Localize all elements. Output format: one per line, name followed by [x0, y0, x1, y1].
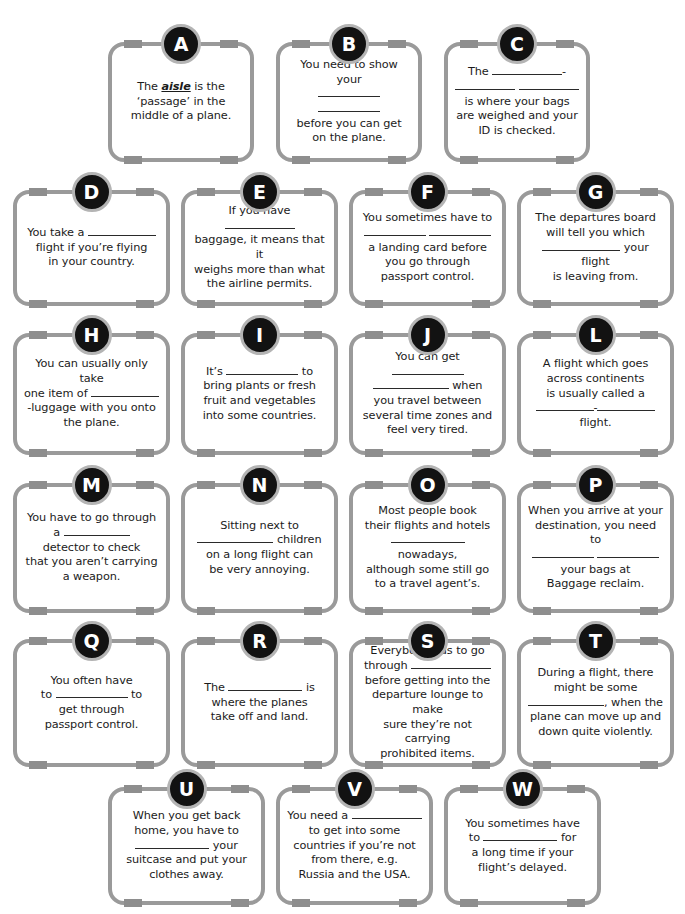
- card-corner-tab-tl-icon: [365, 331, 383, 339]
- vocab-card-p[interactable]: PWhen you arrive at yourdestination, you…: [517, 483, 674, 613]
- card-letter-badge-v: V: [335, 769, 375, 809]
- card-corner-tab-tr-icon: [472, 188, 490, 196]
- card-corner-tab-tr-icon: [136, 188, 154, 196]
- vocab-card-r[interactable]: RThe iswhere the planestake off and land…: [181, 639, 338, 767]
- card-text-j: You can get whenyou travel betweensevera…: [353, 348, 502, 440]
- card-corner-tab-tr-icon: [304, 637, 322, 645]
- card-corner-tab-br-icon: [640, 761, 658, 769]
- card-corner-tab-bl-icon: [365, 761, 383, 769]
- card-corner-tab-br-icon: [304, 300, 322, 308]
- card-corner-tab-tl-icon: [460, 785, 478, 793]
- card-corner-tab-br-icon: [640, 449, 658, 457]
- vocab-card-w[interactable]: WYou sometimes haveto fora long time if …: [444, 787, 601, 905]
- card-corner-tab-bl-icon: [197, 449, 215, 457]
- card-corner-tab-tl-icon: [29, 331, 47, 339]
- card-corner-tab-bl-icon: [460, 156, 478, 164]
- vocab-card-m[interactable]: MYou have to go througha detector to che…: [13, 483, 170, 613]
- card-letter-badge-b: B: [329, 24, 369, 64]
- card-corner-tab-tr-icon: [136, 331, 154, 339]
- card-text-h: You can usually only takeone item of -lu…: [17, 355, 166, 432]
- card-corner-tab-bl-icon: [292, 156, 310, 164]
- card-corner-tab-bl-icon: [29, 300, 47, 308]
- card-corner-tab-bl-icon: [533, 300, 551, 308]
- card-text-c: The - is where your bagsare weighed and …: [448, 63, 586, 140]
- card-corner-tab-tr-icon: [640, 637, 658, 645]
- card-letter-badge-i: I: [240, 315, 280, 355]
- card-corner-tab-tl-icon: [365, 481, 383, 489]
- card-letter-badge-p: P: [576, 465, 616, 505]
- card-corner-tab-br-icon: [472, 300, 490, 308]
- card-corner-tab-tl-icon: [29, 481, 47, 489]
- card-text-r: The iswhere the planestake off and land.: [185, 679, 334, 727]
- card-corner-tab-tr-icon: [388, 40, 406, 48]
- vocab-card-h[interactable]: HYou can usually only takeone item of -l…: [13, 333, 170, 455]
- card-text-l: A flight which goesacross continentsis u…: [521, 355, 670, 432]
- card-letter-badge-d: D: [72, 172, 112, 212]
- card-corner-tab-br-icon: [388, 156, 406, 164]
- card-text-o: Most people booktheir flights and hotels…: [353, 502, 502, 594]
- card-corner-tab-tl-icon: [197, 481, 215, 489]
- card-letter-badge-l: L: [576, 315, 616, 355]
- vocab-card-a[interactable]: AThe aisle is the‘passage’ in themiddle …: [108, 42, 254, 162]
- card-letter-badge-o: O: [408, 465, 448, 505]
- vocab-card-q[interactable]: QYou often haveto toget throughpassport …: [13, 639, 170, 767]
- card-corner-tab-bl-icon: [29, 761, 47, 769]
- card-corner-tab-tr-icon: [640, 481, 658, 489]
- worksheet-sheet: AThe aisle is the‘passage’ in themiddle …: [0, 0, 685, 914]
- card-text-p: When you arrive at yourdestination, you …: [521, 502, 670, 594]
- vocab-card-s[interactable]: SEverybody has to gothrough before getti…: [349, 639, 506, 767]
- vocab-card-f[interactable]: FYou sometimes have to a landing card be…: [349, 190, 506, 306]
- card-corner-tab-tr-icon: [472, 331, 490, 339]
- vocab-card-e[interactable]: EIf you have baggage, it means that itwe…: [181, 190, 338, 306]
- vocab-card-d[interactable]: DYou take a flight if you’re flyingin yo…: [13, 190, 170, 306]
- card-corner-tab-br-icon: [472, 449, 490, 457]
- card-corner-tab-bl-icon: [124, 156, 142, 164]
- card-letter-badge-e: E: [240, 172, 280, 212]
- card-corner-tab-bl-icon: [365, 300, 383, 308]
- card-corner-tab-tr-icon: [399, 785, 417, 793]
- card-letter-badge-f: F: [408, 172, 448, 212]
- vocab-card-j[interactable]: JYou can get whenyou travel betweensever…: [349, 333, 506, 455]
- card-corner-tab-tr-icon: [231, 785, 249, 793]
- vocab-card-u[interactable]: UWhen you get backhome, you have to your…: [108, 787, 265, 905]
- card-corner-tab-tr-icon: [220, 40, 238, 48]
- card-letter-badge-c: C: [497, 24, 537, 64]
- card-corner-tab-tr-icon: [472, 481, 490, 489]
- vocab-card-i[interactable]: IIt’s tobring plants or freshfruit and v…: [181, 333, 338, 455]
- card-corner-tab-tr-icon: [304, 331, 322, 339]
- card-letter-badge-g: G: [576, 172, 616, 212]
- card-corner-tab-br-icon: [472, 607, 490, 615]
- card-corner-tab-tl-icon: [29, 188, 47, 196]
- card-corner-tab-tl-icon: [460, 40, 478, 48]
- vocab-card-o[interactable]: OMost people booktheir flights and hotel…: [349, 483, 506, 613]
- card-corner-tab-bl-icon: [29, 449, 47, 457]
- card-corner-tab-br-icon: [136, 449, 154, 457]
- card-text-g: The departures boardwill tell you which …: [521, 209, 670, 286]
- vocab-card-g[interactable]: GThe departures boardwill tell you which…: [517, 190, 674, 306]
- vocab-card-l[interactable]: LA flight which goesacross continentsis …: [517, 333, 674, 455]
- card-corner-tab-br-icon: [640, 300, 658, 308]
- vocab-card-c[interactable]: CThe - is where your bagsare weighed and…: [444, 42, 590, 162]
- card-text-b: You need to show your before you can get…: [280, 56, 418, 148]
- card-text-d: You take a flight if you’re flyingin you…: [17, 224, 166, 272]
- vocab-card-b[interactable]: BYou need to show your before you can ge…: [276, 42, 422, 162]
- vocab-card-v[interactable]: VYou need a to get into somecountries if…: [276, 787, 433, 905]
- card-text-f: You sometimes have to a landing card bef…: [353, 209, 502, 286]
- card-corner-tab-tr-icon: [640, 331, 658, 339]
- vocab-card-t[interactable]: TDuring a flight, theremight be some, wh…: [517, 639, 674, 767]
- card-corner-tab-br-icon: [304, 607, 322, 615]
- card-letter-badge-a: A: [161, 24, 201, 64]
- card-corner-tab-tl-icon: [533, 637, 551, 645]
- card-corner-tab-tl-icon: [197, 188, 215, 196]
- card-corner-tab-bl-icon: [197, 761, 215, 769]
- card-corner-tab-br-icon: [556, 156, 574, 164]
- card-text-m: You have to go througha detector to chec…: [17, 509, 166, 586]
- card-letter-badge-r: R: [240, 621, 280, 661]
- card-corner-tab-tr-icon: [472, 637, 490, 645]
- card-corner-tab-br-icon: [136, 761, 154, 769]
- vocab-card-n[interactable]: NSitting next to childrenon a long fligh…: [181, 483, 338, 613]
- card-corner-tab-br-icon: [567, 899, 585, 907]
- card-corner-tab-tr-icon: [136, 637, 154, 645]
- card-corner-tab-br-icon: [304, 761, 322, 769]
- card-corner-tab-br-icon: [304, 449, 322, 457]
